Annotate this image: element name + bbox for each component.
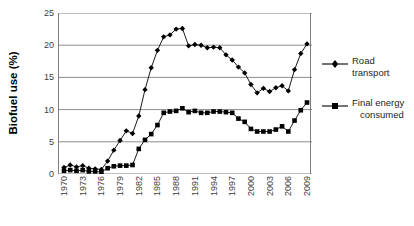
chart-legend: Road transport Final energy consumed [322,56,414,136]
plot-svg [59,13,312,174]
data-point-square [155,123,160,128]
y-axis-title-text: Biofuel use (%) [7,51,19,134]
data-point-square [242,120,247,125]
x-tick-label: 1988 [171,176,181,196]
data-point-diamond [267,89,272,94]
data-point-diamond [198,43,203,48]
data-point-square [255,129,260,134]
data-point-square [217,109,222,114]
data-point-diamond [292,67,297,72]
data-point-square [105,166,110,171]
data-point-square [87,169,92,174]
data-point-square [68,168,73,173]
data-point-diamond [124,128,129,133]
x-tick-label: 2000 [246,176,256,196]
data-point-diamond [111,147,116,152]
series-road-transport [61,26,309,172]
data-point-square [224,110,229,115]
y-tick-label: 5 [28,137,54,147]
x-tick-label: 1979 [115,176,125,196]
data-point-square [149,132,154,137]
x-tick-label: 1985 [152,176,162,196]
data-point-square [286,129,291,134]
data-point-diamond [155,48,160,53]
data-point-square [249,127,254,132]
data-point-diamond [180,26,185,31]
data-point-square [274,127,279,132]
x-tick-label: 2009 [302,176,312,196]
data-point-square [199,111,204,116]
biofuel-use-line-chart: Biofuel use (%) 0510152025 1970197319761… [0,0,414,226]
data-point-square [136,147,141,152]
data-point-square [305,100,310,105]
data-point-square [280,124,285,129]
series-line [64,28,307,169]
x-tick-label: 1973 [78,176,88,196]
legend-label-line1: Final energy [352,97,404,108]
data-point-square [193,109,198,114]
data-point-square [180,106,185,111]
x-tick-label: 1970 [59,176,69,196]
data-point-square [130,163,135,168]
x-tick-label: 2006 [283,176,293,196]
x-tick-label: 1991 [190,176,200,196]
data-point-diamond [136,113,141,118]
data-point-square [292,118,297,123]
data-point-square [168,109,173,114]
x-tick-label: 1994 [209,176,219,196]
data-point-square [112,164,117,169]
data-point-square [124,163,129,168]
data-point-diamond [298,51,303,56]
data-point-diamond [304,41,309,46]
y-tick-label: 15 [28,72,54,82]
data-point-square [230,111,235,116]
y-tick-label: 20 [28,40,54,50]
data-point-square [261,129,266,134]
legend-marker-diamond-icon [322,58,348,70]
y-tick-label: 25 [28,8,54,18]
legend-marker-square-icon [322,100,348,112]
data-point-square [174,109,179,114]
series-final-energy-consumed [62,100,310,174]
data-point-square [80,168,85,173]
data-point-square [211,109,216,114]
data-point-diamond [273,85,278,90]
x-tick-label: 1997 [227,176,237,196]
x-tick-label: 1982 [134,176,144,196]
data-point-square [267,129,272,134]
data-point-diamond [80,163,85,168]
data-point-diamond [186,43,191,48]
data-point-square [205,111,210,116]
y-tick-label: 0 [28,169,54,179]
plot-area [58,13,311,174]
data-point-diamond [161,34,166,39]
data-point-diamond [192,42,197,47]
data-point-square [236,116,241,121]
data-point-square [62,168,67,173]
x-tick-label: 1976 [96,176,106,196]
y-axis-tick-labels: 0510152025 [26,0,54,186]
data-point-square [161,111,166,116]
y-axis-title: Biofuel use (%) [0,0,26,186]
data-point-diamond [130,131,135,136]
y-tick-label: 10 [28,105,54,115]
data-point-square [93,169,98,174]
data-point-square [118,163,123,168]
legend-label-line1: Road transport [352,55,390,78]
data-point-square [143,138,148,143]
data-point-diamond [117,138,122,143]
data-point-diamond [142,87,147,92]
data-point-diamond [149,65,154,70]
data-point-square [99,170,104,174]
x-tick-label: 2003 [265,176,275,196]
legend-label-line2: consumed [352,109,414,121]
data-point-square [298,108,303,113]
data-point-square [186,110,191,115]
legend-label-road-transport: Road transport [352,55,414,78]
data-point-diamond [205,45,210,50]
series-line [64,103,307,173]
data-point-diamond [68,162,73,167]
legend-label-final-energy-consumed: Final energy consumed [352,97,414,120]
x-axis-tick-labels: 1970197319761979198219851988199119941997… [58,176,313,226]
data-point-square [74,168,79,173]
